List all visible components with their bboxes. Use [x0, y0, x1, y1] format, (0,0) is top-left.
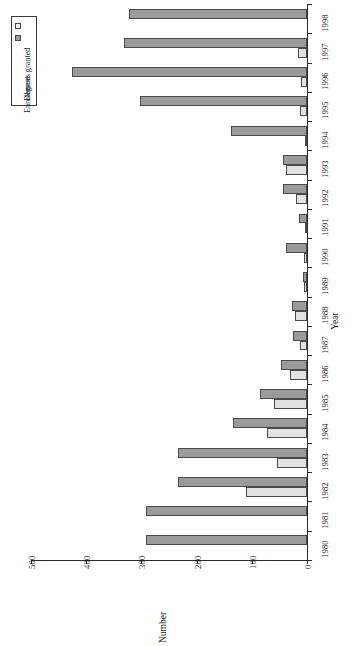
category-tick [308, 267, 312, 268]
category-tick [308, 297, 312, 298]
bar-enrollment-1984 [233, 418, 307, 428]
bar-degrees-1995 [300, 106, 307, 116]
bar-enrollment-1997 [124, 38, 307, 48]
bar-enrollment-1988 [292, 301, 307, 311]
value-tick-label-300: 300 [137, 556, 147, 569]
category-tick-label-1988: 1988 [320, 306, 330, 324]
category-tick-label-1992: 1992 [320, 189, 330, 207]
legend-label-enrollment: Enrollment [23, 76, 32, 113]
category-tick-label-1995: 1995 [320, 102, 330, 120]
category-tick [308, 472, 312, 473]
category-tick-label-1989: 1989 [320, 277, 330, 295]
category-tick [308, 443, 312, 444]
legend-swatch-degrees [15, 23, 21, 29]
bar-degrees-1988 [295, 311, 307, 321]
bar-degrees-1992 [296, 194, 307, 204]
category-tick [308, 560, 312, 561]
bar-degrees-1983 [277, 458, 307, 468]
category-tick-label-1981: 1981 [320, 511, 330, 529]
bar-degrees-1987 [300, 341, 307, 351]
bar-enrollment-1994 [231, 126, 307, 136]
chart-legend: Degrees grantedEnrollment [11, 16, 37, 106]
value-tick-label-400: 400 [82, 556, 92, 569]
value-axis-line [31, 560, 308, 561]
category-tick [308, 501, 312, 502]
bar-degrees-1986 [290, 370, 307, 380]
category-tick [308, 180, 312, 181]
category-tick-label-1982: 1982 [320, 482, 330, 500]
category-tick-label-1994: 1994 [320, 131, 330, 149]
bar-degrees-1989 [304, 282, 307, 292]
bar-enrollment-1983 [178, 448, 307, 458]
category-tick-label-1985: 1985 [320, 394, 330, 412]
bar-degrees-1991 [305, 223, 307, 233]
value-tick-label-200: 200 [193, 556, 203, 569]
bar-enrollment-1990 [286, 243, 307, 253]
bar-degrees-1982 [246, 487, 307, 497]
category-tick-label-1997: 1997 [320, 43, 330, 61]
category-tick-label-1990: 1990 [320, 248, 330, 266]
category-tick [308, 63, 312, 64]
value-tick-label-0: 0 [303, 565, 313, 569]
plot-area [31, 4, 307, 560]
bar-enrollment-1991 [299, 214, 307, 224]
category-tick [308, 209, 312, 210]
category-tick [308, 4, 312, 5]
category-axis-line [307, 4, 308, 560]
bar-enrollment-1998 [129, 9, 307, 19]
value-tick-label-500: 500 [27, 556, 37, 569]
bar-enrollment-1996 [72, 67, 307, 77]
category-tick [308, 33, 312, 34]
bar-enrollment-1981 [146, 506, 307, 516]
category-tick [308, 238, 312, 239]
category-tick-label-1987: 1987 [320, 336, 330, 354]
bar-enrollment-1980 [146, 535, 307, 545]
category-tick-label-1998: 1998 [320, 14, 330, 32]
category-tick [308, 355, 312, 356]
value-tick-label-100: 100 [248, 556, 258, 569]
category-tick [308, 326, 312, 327]
chart-figure: 1980198119821983198419851986198719881989… [0, 0, 354, 646]
bar-enrollment-1986 [281, 360, 307, 370]
category-tick-label-1983: 1983 [320, 453, 330, 471]
bar-degrees-1994 [305, 136, 307, 146]
bar-degrees-1996 [301, 77, 307, 87]
category-tick [308, 92, 312, 93]
bar-enrollment-1987 [293, 331, 307, 341]
bar-degrees-1984 [267, 428, 307, 438]
bar-degrees-1985 [274, 399, 307, 409]
category-tick-label-1991: 1991 [320, 219, 330, 237]
bar-degrees-1990 [304, 253, 307, 263]
category-axis-title: Year [330, 312, 340, 330]
bar-enrollment-1985 [260, 389, 307, 399]
bar-enrollment-1982 [178, 477, 307, 487]
value-tick-0 [307, 560, 308, 564]
category-tick [308, 414, 312, 415]
legend-swatch-enrollment [15, 35, 21, 41]
bar-degrees-1997 [298, 48, 307, 58]
category-tick [308, 384, 312, 385]
category-tick-label-1980: 1980 [320, 541, 330, 559]
value-axis-title: Number [158, 612, 168, 643]
category-tick-label-1993: 1993 [320, 160, 330, 178]
category-tick [308, 150, 312, 151]
category-tick-label-1984: 1984 [320, 424, 330, 442]
bar-enrollment-1993 [283, 155, 307, 165]
bar-enrollment-1989 [303, 272, 307, 282]
category-tick [308, 121, 312, 122]
bar-degrees-1993 [286, 165, 307, 175]
category-tick-label-1986: 1986 [320, 365, 330, 383]
bar-enrollment-1992 [283, 184, 307, 194]
bar-enrollment-1995 [140, 96, 307, 106]
category-tick [308, 531, 312, 532]
category-tick-label-1996: 1996 [320, 72, 330, 90]
